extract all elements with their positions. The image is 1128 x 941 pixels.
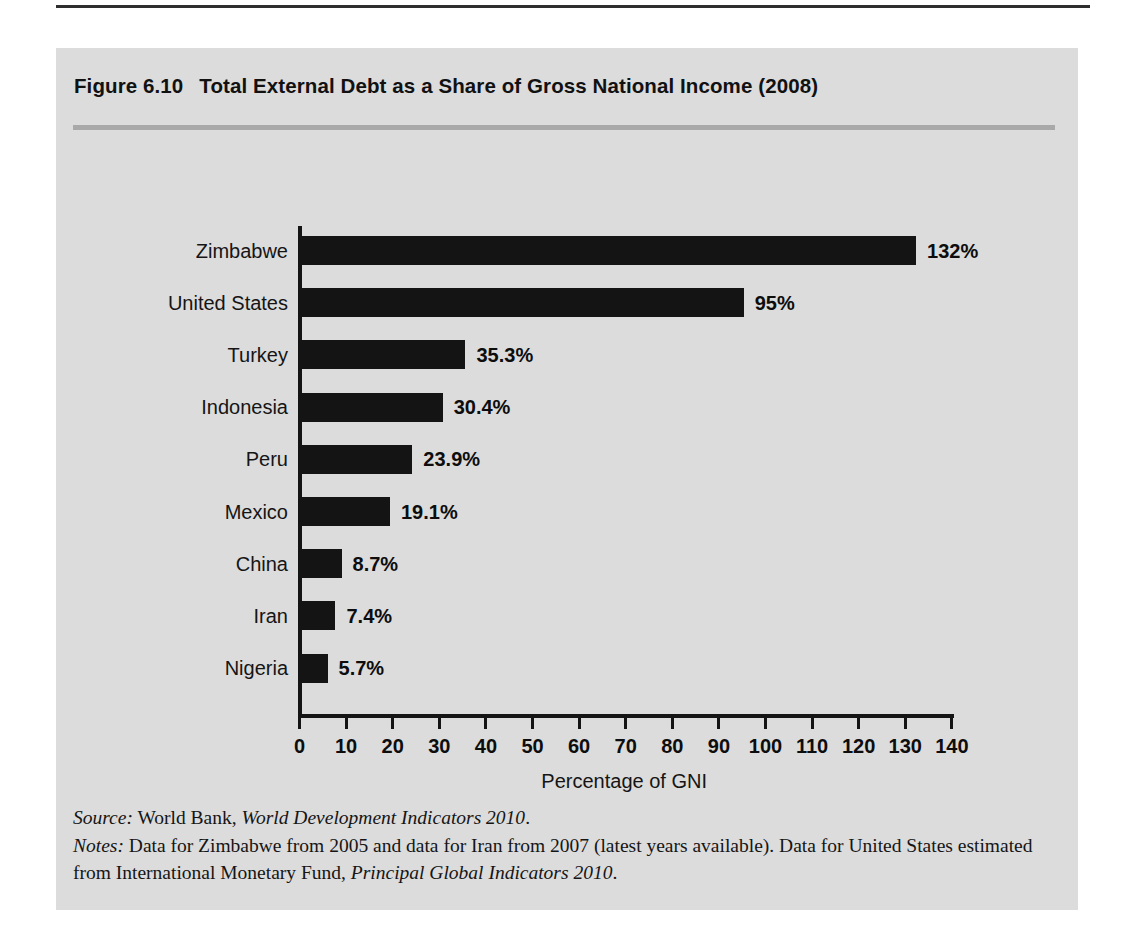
x-axis-tick	[950, 718, 953, 729]
figure-panel: Figure 6.10Total External Debt as a Shar…	[56, 48, 1078, 910]
x-axis-tick	[857, 718, 860, 729]
x-axis-tick	[764, 718, 767, 729]
x-axis-tick	[391, 718, 394, 729]
category-label: United States	[56, 293, 288, 313]
page-top-rule	[56, 5, 1090, 8]
x-axis-tick	[578, 718, 581, 729]
bar	[301, 236, 916, 265]
bar	[301, 601, 335, 630]
title-divider-rule	[73, 125, 1055, 130]
source-line: Source: World Bank, World Development In…	[73, 804, 1063, 832]
category-label-row: China	[56, 554, 288, 574]
figure-footnotes: Source: World Bank, World Development In…	[73, 804, 1063, 887]
category-label-row: Nigeria	[56, 658, 288, 678]
x-axis-tick	[484, 718, 487, 729]
bar	[301, 497, 390, 526]
x-axis-tick	[531, 718, 534, 729]
bar-chart-plot-area: 0102030405060708090100110120130140 132%9…	[56, 148, 1078, 788]
bar-value-label: 23.9%	[423, 449, 480, 469]
category-label-row: Peru	[56, 449, 288, 469]
figure-page: Figure 6.10Total External Debt as a Shar…	[0, 0, 1128, 941]
category-label-row: Iran	[56, 606, 288, 626]
figure-title-text: Total External Debt as a Share of Gross …	[199, 74, 818, 97]
category-label: Indonesia	[56, 397, 288, 417]
bar	[301, 654, 328, 683]
x-axis-tick	[671, 718, 674, 729]
bar	[301, 288, 744, 317]
bar-value-label: 19.1%	[401, 502, 458, 522]
bar-value-label: 132%	[927, 241, 978, 261]
x-axis-tick	[717, 718, 720, 729]
bar	[301, 340, 465, 369]
category-label-row: United States	[56, 293, 288, 313]
x-axis-tick-label: 140	[922, 736, 982, 756]
category-label-row: Indonesia	[56, 397, 288, 417]
bar-value-label: 7.4%	[346, 606, 392, 626]
source-text: World Bank,	[133, 807, 242, 828]
category-label: Peru	[56, 449, 288, 469]
x-axis-tick	[438, 718, 441, 729]
category-label: Nigeria	[56, 658, 288, 678]
bar	[301, 393, 443, 422]
category-label-row: Zimbabwe	[56, 241, 288, 261]
bar-value-label: 5.7%	[339, 658, 385, 678]
category-label-row: Turkey	[56, 345, 288, 365]
figure-number: Figure 6.10	[74, 74, 183, 97]
bar	[301, 549, 342, 578]
figure-title: Figure 6.10Total External Debt as a Shar…	[74, 74, 818, 98]
bar-value-label: 30.4%	[454, 397, 511, 417]
category-label: Turkey	[56, 345, 288, 365]
category-label: Mexico	[56, 502, 288, 522]
bar-value-label: 8.7%	[353, 554, 399, 574]
x-axis-tick	[345, 718, 348, 729]
x-axis-title: Percentage of GNI	[178, 770, 1070, 793]
x-axis-tick	[298, 718, 301, 729]
category-label: China	[56, 554, 288, 574]
notes-end: .	[612, 862, 617, 883]
category-label: Iran	[56, 606, 288, 626]
source-end: .	[525, 807, 530, 828]
notes-italic-title: Principal Global Indicators 2010	[351, 862, 613, 883]
notes-label: Notes:	[73, 835, 124, 856]
x-axis-tick	[811, 718, 814, 729]
source-italic-title: World Development Indicators 2010	[242, 807, 526, 828]
x-axis-tick	[904, 718, 907, 729]
category-label-row: Mexico	[56, 502, 288, 522]
bar	[301, 445, 412, 474]
notes-line: Notes: Data for Zimbabwe from 2005 and d…	[73, 832, 1063, 887]
bar-value-label: 35.3%	[476, 345, 533, 365]
bar-value-label: 95%	[755, 293, 795, 313]
category-label: Zimbabwe	[56, 241, 288, 261]
x-axis-tick	[624, 718, 627, 729]
source-label: Source:	[73, 807, 133, 828]
